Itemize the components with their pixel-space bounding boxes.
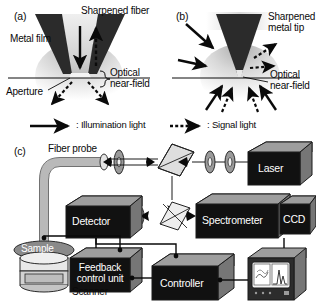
label-aperture: Aperture bbox=[6, 87, 43, 98]
illumination-mid-left-b bbox=[178, 60, 206, 66]
lens-laser-1-center bbox=[208, 158, 212, 167]
label-fiber-probe: Fiber probe bbox=[48, 144, 97, 155]
cable-node-feedback-right bbox=[130, 276, 135, 281]
scanner-base bbox=[20, 285, 68, 292]
label-scanner: Scanner bbox=[72, 287, 108, 298]
label-controller: Controller bbox=[160, 278, 204, 289]
cable-node-feedback-top bbox=[118, 248, 123, 253]
label-feedback-control-unit: Feedback control unit bbox=[74, 263, 126, 285]
label-spectrometer: Spectrometer bbox=[202, 215, 263, 226]
cable-node-sample bbox=[42, 236, 47, 241]
label-optical-near-field-a: Optical near-field bbox=[110, 68, 150, 90]
panel-b-id: (b) bbox=[176, 11, 188, 22]
aperture-opening bbox=[69, 73, 91, 78]
beam-splitter-lower-icon bbox=[160, 202, 190, 230]
beam-splitter-upper-icon bbox=[158, 144, 194, 176]
beam-arrow-to-spectrometer bbox=[186, 211, 196, 221]
panel-a-id: (a) bbox=[14, 11, 26, 22]
lens-laser-2-center bbox=[228, 158, 232, 167]
label-optical-near-field-b: Optical near-field bbox=[270, 70, 310, 92]
label-sample: Sample bbox=[21, 244, 54, 255]
label-metal-film: Metal film bbox=[10, 34, 51, 45]
label-sharpened-metal-tip: Sharpened metal tip bbox=[268, 12, 315, 34]
legend-signal-label: : Signal light bbox=[207, 120, 256, 130]
label-sharpened-fiber: Sharpened fiber bbox=[81, 6, 149, 17]
label-detector: Detector bbox=[72, 216, 110, 227]
panel-c-id: (c) bbox=[14, 146, 26, 157]
scanner-inset bbox=[25, 274, 63, 283]
label-laser: Laser bbox=[258, 163, 283, 174]
label-ccd: CCD bbox=[283, 214, 305, 225]
cable-node-controller-top bbox=[174, 254, 179, 259]
monitor-image-panel bbox=[254, 264, 270, 285]
figure-root: (a) Sharpened fiber Metal film Aperture … bbox=[0, 0, 316, 307]
cable-node-controller-right bbox=[218, 278, 223, 283]
display-monitor bbox=[248, 248, 306, 300]
legend-illumination-label: : Illumination light bbox=[76, 120, 145, 130]
